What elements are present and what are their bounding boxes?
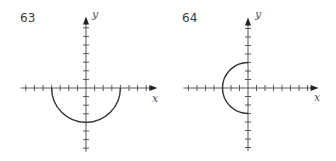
y-axis-label: y: [92, 8, 98, 21]
figure-64: 64 y x: [168, 0, 336, 161]
x-axis-arrow-icon: [149, 85, 157, 91]
x-axis-label: x: [314, 91, 320, 104]
figure-63: 63 y x: [0, 0, 168, 161]
x-axis-label: x: [152, 92, 158, 105]
y-axis-arrow-icon: [245, 17, 251, 25]
graph-63: [0, 0, 168, 161]
graph-64: [168, 0, 336, 161]
y-axis-label: y: [255, 8, 261, 21]
y-axis-arrow-icon: [83, 17, 89, 25]
